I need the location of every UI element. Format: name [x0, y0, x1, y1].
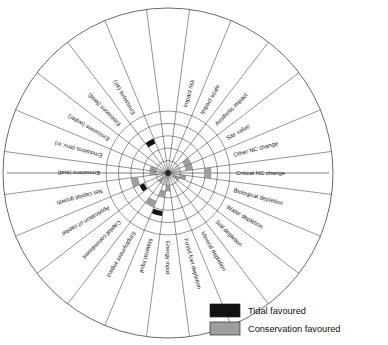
category-label: Impact scale	[199, 83, 221, 115]
category-label: Impact risk	[182, 79, 195, 108]
category-label: Material input	[139, 238, 154, 274]
category-label: Fossil fuel depletion	[183, 238, 202, 290]
category-label: Energy input	[165, 241, 171, 274]
chart-category-labels: Impact riskImpact scaleAesthetic impactS…	[54, 79, 286, 290]
category-label: Employment impact	[106, 231, 137, 279]
category-label: Critical NC change	[236, 170, 286, 176]
legend-swatch	[210, 322, 240, 335]
legend-label: Conservation favoured	[248, 324, 340, 334]
category-label: Other NC change	[233, 140, 280, 158]
category-label: Biological depletion	[233, 187, 284, 206]
chart-legend: Tidal favouredConservation favoured	[210, 304, 340, 335]
category-label: Mineral depletion	[200, 230, 228, 272]
category-label: Emissions (water)	[67, 113, 111, 142]
data-wedge	[204, 168, 211, 178]
category-label: Capital commitment	[81, 219, 122, 260]
category-label: Soil depletion	[214, 219, 243, 248]
category-label: Application of capital	[61, 205, 111, 237]
category-label: Water depletion	[226, 204, 265, 230]
category-label: Emissions (air)	[112, 79, 137, 116]
legend-swatch	[210, 304, 240, 317]
legend-label: Tidal favoured	[248, 306, 306, 316]
category-label: Net capital growth	[56, 188, 103, 206]
category-label: Site value	[225, 123, 251, 141]
radial-chart-figure: Impact riskImpact scaleAesthetic impactS…	[0, 0, 388, 345]
category-label: Aesthetic impact	[214, 92, 249, 127]
category-label: Emissions (land)	[87, 92, 122, 127]
radial-chart-svg: Impact riskImpact scaleAesthetic impactS…	[0, 0, 388, 345]
category-label: Emissions (aud)	[58, 170, 100, 176]
